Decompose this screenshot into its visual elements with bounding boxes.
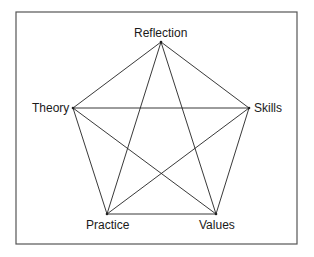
node-dot-skills	[248, 107, 251, 110]
node-label-theory: Theory	[32, 101, 69, 115]
node-dot-theory	[72, 107, 75, 110]
node-dot-values	[215, 213, 218, 216]
edge-theory-values	[73, 108, 216, 214]
diagram-edges	[72, 41, 251, 216]
edge-theory-reflection	[73, 42, 161, 108]
node-label-practice: Practice	[86, 218, 129, 232]
edge-reflection-values	[161, 42, 216, 214]
edge-practice-theory	[73, 108, 107, 214]
node-label-reflection: Reflection	[134, 26, 187, 40]
node-dot-practice	[106, 213, 109, 216]
edge-reflection-skills	[161, 42, 249, 108]
pentagram-diagram: Reflection Skills Values Practice Theory	[0, 0, 314, 257]
node-dot-reflection	[160, 41, 163, 44]
node-label-skills: Skills	[254, 101, 282, 115]
edge-skills-practice	[107, 108, 249, 214]
node-label-values: Values	[199, 218, 235, 232]
diagram-frame	[16, 12, 297, 244]
edge-skills-values	[216, 108, 249, 214]
edge-reflection-practice	[107, 42, 161, 214]
